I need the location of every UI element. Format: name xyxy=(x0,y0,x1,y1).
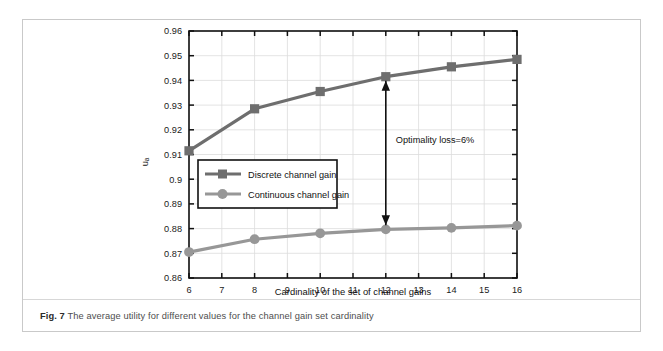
legend-box xyxy=(198,160,337,208)
y-axis-tick-label: 0.88 xyxy=(164,224,182,234)
data-point-marker xyxy=(447,223,457,233)
optimality-loss-arrow-head-top xyxy=(382,81,390,91)
y-axis-tick-label: 0.93 xyxy=(164,101,182,111)
y-axis-tick-labels: 0.860.870.880.890.90.910.920.930.940.950… xyxy=(164,26,182,283)
y-axis-tick-label: 0.92 xyxy=(164,125,182,135)
data-point-marker xyxy=(512,55,521,64)
data-point-marker xyxy=(250,234,260,244)
y-axis-tick-label: 0.87 xyxy=(164,249,182,259)
legend-label-continuous: Continuous channel gain xyxy=(248,190,349,200)
legend-marker-continuous xyxy=(218,189,228,199)
y-axis-title: uₐ xyxy=(139,157,150,166)
data-point-marker xyxy=(184,146,193,155)
chart-plot-area: 0.860.870.880.890.90.910.920.930.940.950… xyxy=(23,20,642,301)
figure-caption-strip: Fig. 7 The average utility for different… xyxy=(23,299,640,331)
y-axis-tick-label: 0.89 xyxy=(164,199,182,209)
data-point-marker xyxy=(381,224,391,234)
x-axis-tick-label: 14 xyxy=(446,285,456,295)
data-point-marker xyxy=(250,104,259,113)
chart-legend: Discrete channel gain Continuous channel… xyxy=(198,160,349,208)
figure-caption: Fig. 7 The average utility for different… xyxy=(40,311,374,321)
figure-caption-label: Fig. 7 xyxy=(40,311,65,321)
y-axis-tick-label: 0.91 xyxy=(164,150,182,160)
x-axis-tick-label: 16 xyxy=(512,285,522,295)
data-point-marker xyxy=(512,221,522,231)
y-axis-tick-label: 0.94 xyxy=(164,76,182,86)
x-axis-tick-label: 8 xyxy=(252,285,257,295)
legend-marker-discrete xyxy=(218,170,227,179)
x-axis-tick-label: 15 xyxy=(479,285,489,295)
data-point-marker xyxy=(315,228,325,238)
figure-caption-body: The average utility for different values… xyxy=(65,311,374,321)
optimality-loss-label: Optimality loss=6% xyxy=(396,135,474,145)
figure-panel: 0.860.870.880.890.90.910.920.930.940.950… xyxy=(22,19,641,332)
x-axis-title: Cardinality of the set of channel gains xyxy=(275,286,432,297)
line-chart: 0.860.870.880.890.90.910.920.930.940.950… xyxy=(23,20,642,301)
data-point-marker xyxy=(381,72,390,81)
optimality-loss-arrow-head-bottom xyxy=(382,215,390,225)
y-axis-tick-label: 0.95 xyxy=(164,51,182,61)
y-axis-tick-label: 0.96 xyxy=(164,26,182,36)
x-axis-tick-label: 7 xyxy=(219,285,224,295)
data-point-marker xyxy=(316,87,325,96)
y-axis-tick-label: 0.86 xyxy=(164,273,182,283)
legend-label-discrete: Discrete channel gain xyxy=(248,170,336,180)
data-point-marker xyxy=(184,247,194,257)
y-axis-tick-label: 0.9 xyxy=(169,175,182,185)
x-axis-tick-label: 6 xyxy=(186,285,191,295)
data-point-marker xyxy=(447,62,456,71)
